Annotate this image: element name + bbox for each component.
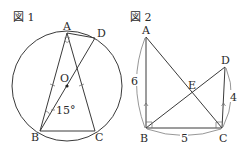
segment-ad <box>67 33 95 38</box>
figure-1: 図 1 A D O B C 15° <box>12 11 122 144</box>
angle-arc-b <box>46 111 50 115</box>
angle-label-15: 15° <box>56 104 76 117</box>
figure-2-title: 図 2 <box>130 11 152 24</box>
segment-cd <box>222 67 225 128</box>
length-label-bc: 5 <box>181 132 188 145</box>
figure-2: 図 2 A B C D E 6 5 4 <box>130 11 237 145</box>
label-point-o: O <box>60 72 69 85</box>
label-point-d: D <box>221 54 230 67</box>
angle-arc-a-inner <box>65 37 71 38</box>
label-point-c: C <box>95 131 103 144</box>
segment-ac <box>146 37 222 128</box>
label-point-a: A <box>141 24 151 37</box>
segment-bd <box>146 67 225 128</box>
label-point-d: D <box>97 27 106 40</box>
label-point-c: C <box>219 132 227 145</box>
geometry-figures: 図 1 A D O B C 15° 図 2 <box>0 0 247 150</box>
label-point-b: B <box>31 131 39 144</box>
length-label-cd: 4 <box>230 91 237 104</box>
label-point-b: B <box>140 132 148 145</box>
label-point-e: E <box>188 79 196 92</box>
figure-1-title: 図 1 <box>13 11 35 24</box>
label-point-a: A <box>62 20 72 33</box>
angle-arc-a <box>65 41 70 43</box>
length-label-ab: 6 <box>131 75 138 88</box>
